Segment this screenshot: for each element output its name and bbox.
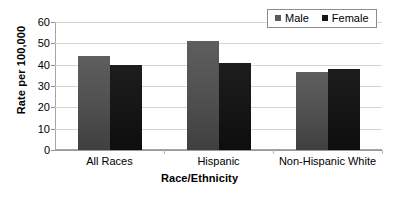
x-category-label: Non-Hispanic White (273, 155, 382, 167)
plot-area: 0102030405060 (55, 22, 382, 150)
bar-male-all-races (78, 56, 110, 150)
y-tick-mark (51, 86, 55, 87)
y-tick-label: 0 (10, 144, 50, 156)
bar-female-non-hispanic-white (328, 69, 360, 150)
legend: Male Female (267, 9, 377, 28)
bar-male-hispanic (187, 41, 219, 150)
female-swatch-icon (322, 15, 328, 21)
y-tick-mark (51, 22, 55, 23)
y-tick-mark (51, 107, 55, 108)
gridline (55, 150, 382, 151)
bar-group (296, 22, 360, 150)
y-tick-mark (51, 150, 55, 151)
y-tick-label: 50 (10, 37, 50, 49)
y-tick-label: 30 (10, 80, 50, 92)
x-category-label: Hispanic (164, 155, 273, 167)
x-tick-mark (164, 150, 165, 154)
x-tick-mark (382, 150, 383, 154)
legend-label-female: Female (332, 12, 369, 24)
bar-male-non-hispanic-white (296, 72, 328, 150)
bar-female-hispanic (219, 63, 251, 150)
y-tick-mark (51, 65, 55, 66)
y-tick-mark (51, 129, 55, 130)
y-tick-label: 40 (10, 59, 50, 71)
y-tick-mark (51, 43, 55, 44)
x-category-label: All Races (55, 155, 164, 167)
y-tick-label: 60 (10, 16, 50, 28)
male-swatch-icon (275, 15, 281, 21)
y-tick-label: 10 (10, 123, 50, 135)
bar-female-all-races (110, 65, 142, 150)
y-tick-label: 20 (10, 101, 50, 113)
x-axis-title: Race/Ethnicity (0, 172, 399, 184)
bar-chart: Rate per 100,000 0102030405060 All Races… (0, 0, 399, 199)
x-tick-mark (273, 150, 274, 154)
legend-label-male: Male (285, 12, 309, 24)
bar-group (78, 22, 142, 150)
legend-item-male: Male (275, 12, 309, 24)
legend-item-female: Female (322, 12, 369, 24)
bar-group (187, 22, 251, 150)
